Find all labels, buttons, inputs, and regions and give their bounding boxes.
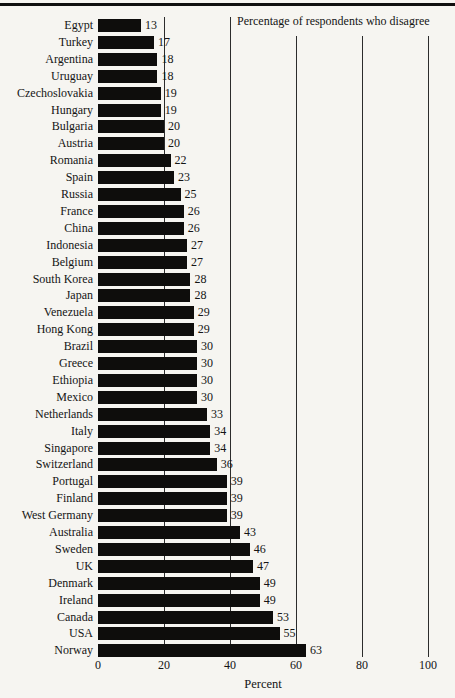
bar-row: Hungary19 [0,102,455,119]
x-axis-title: Percent [163,677,363,692]
country-label: Brazil [0,338,93,355]
bar-row: Ethiopia30 [0,372,455,389]
country-label: Hungary [0,102,93,119]
bar [98,594,260,607]
chart-page: Percentage of respondents who disagree E… [0,0,455,698]
country-label: Sweden [0,541,93,558]
bar-row: China26 [0,220,455,237]
bar-row: Denmark49 [0,575,455,592]
value-label: 39 [231,473,243,489]
bar [98,357,197,370]
bar-row: Japan28 [0,287,455,304]
value-label: 25 [185,186,197,202]
value-label: 18 [161,68,173,84]
x-tick-label: 40 [210,658,250,672]
bar-row: Australia43 [0,524,455,541]
country-label: Russia [0,186,93,203]
value-label: 47 [257,558,269,574]
bar [98,306,194,319]
bar-row: Hong Kong29 [0,321,455,338]
country-label: Uruguay [0,68,93,85]
country-label: South Korea [0,271,93,288]
country-label: USA [0,625,93,642]
bar [98,408,207,421]
bar-row: Switzerland36 [0,456,455,473]
bar-row: Greece30 [0,355,455,372]
bar-row: Romania22 [0,152,455,169]
country-label: Czechoslovakia [0,85,93,102]
bar [98,577,260,590]
country-label: Ethiopia [0,372,93,389]
country-label: Romania [0,152,93,169]
value-label: 46 [254,541,266,557]
value-label: 28 [194,287,206,303]
bar [98,104,161,117]
bar [98,205,184,218]
value-label: 13 [145,17,157,33]
value-label: 28 [194,271,206,287]
value-label: 27 [191,254,203,270]
value-label: 63 [310,642,322,658]
value-label: 18 [161,51,173,67]
bar [98,256,187,269]
value-label: 26 [188,203,200,219]
bar-row: South Korea28 [0,271,455,288]
country-label: Italy [0,423,93,440]
bar-row: France26 [0,203,455,220]
value-label: 30 [201,389,213,405]
value-label: 20 [168,118,180,134]
bar-row: Singapore34 [0,440,455,457]
value-label: 27 [191,237,203,253]
bar-row: Mexico30 [0,389,455,406]
value-label: 34 [214,423,226,439]
value-label: 39 [231,507,243,523]
bar-row: West Germany39 [0,507,455,524]
bar [98,340,197,353]
country-label: Greece [0,355,93,372]
country-label: Australia [0,524,93,541]
value-label: 39 [231,490,243,506]
bar [98,644,306,657]
bar [98,526,240,539]
x-tick-label: 60 [276,658,316,672]
bar [98,475,227,488]
bar-row: Austria20 [0,135,455,152]
bar-row: Netherlands33 [0,406,455,423]
country-label: West Germany [0,507,93,524]
x-tick-label: 80 [342,658,382,672]
value-label: 30 [201,372,213,388]
bar [98,36,154,49]
bar [98,425,210,438]
bar [98,289,190,302]
country-label: China [0,220,93,237]
bar [98,627,280,640]
bar-row: Turkey17 [0,34,455,51]
country-label: Austria [0,135,93,152]
country-label: Netherlands [0,406,93,423]
x-tick-label: 100 [408,658,448,672]
country-label: Norway [0,642,93,659]
country-label: Singapore [0,440,93,457]
bar-row: Canada53 [0,609,455,626]
value-label: 33 [211,406,223,422]
value-label: 53 [277,609,289,625]
country-label: Finland [0,490,93,507]
value-label: 29 [198,304,210,320]
bar [98,509,227,522]
value-label: 36 [221,456,233,472]
bar [98,70,157,83]
country-label: Venezuela [0,304,93,321]
country-label: Hong Kong [0,321,93,338]
bar [98,492,227,505]
bar [98,611,273,624]
bar [98,239,187,252]
value-label: 29 [198,321,210,337]
bar [98,374,197,387]
value-label: 22 [175,152,187,168]
value-label: 17 [158,34,170,50]
bar [98,19,141,32]
bar-row: Brazil30 [0,338,455,355]
bar-row: Russia25 [0,186,455,203]
bar [98,458,217,471]
bar-row: USA55 [0,625,455,642]
